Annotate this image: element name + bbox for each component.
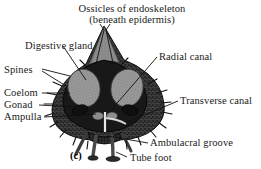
label-transverse-canal: Transverse canal (180, 95, 252, 107)
label-ampulla: Ampulla (4, 111, 41, 123)
leader-tube-foot (116, 152, 127, 157)
label-digestive-gland: Digestive gland (25, 40, 93, 52)
label-tube-foot: Tube foot (130, 152, 172, 164)
figure-panel: Ossicles of endoskeleton (beneath epider… (0, 0, 261, 169)
label-coelom: Coelom (4, 87, 38, 99)
leader-spines-a (42, 69, 70, 76)
leader-spines-b (42, 71, 66, 86)
label-gonad: Gonad (4, 99, 33, 111)
label-ambulacral-groove: Ambulacral groove (150, 137, 233, 149)
figure-caption: (c) (70, 150, 82, 161)
ampulla-left (93, 112, 104, 120)
label-ossicles-line2: (beneath epidermis) (62, 14, 202, 26)
label-ossicles-line1: Ossicles of endoskeleton (62, 3, 202, 15)
tube-foot-sucker (106, 156, 120, 161)
label-spines: Spines (4, 64, 33, 76)
label-radial-canal: Radial canal (159, 51, 212, 63)
